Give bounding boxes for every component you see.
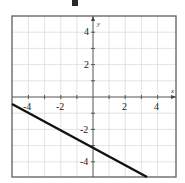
y-tick-label: -4 — [80, 156, 88, 167]
x-axis-label: x — [170, 87, 175, 95]
x-axis-arrow-icon — [171, 95, 176, 99]
y-tick-label: -2 — [80, 124, 88, 135]
y-tick-label: 2 — [84, 59, 89, 70]
coordinate-plane: y x -4 -2 2 4 4 2 -2 -4 — [0, 0, 185, 183]
y-axis-arrow-icon — [91, 16, 95, 21]
axes — [12, 16, 176, 177]
x-tick-label: 2 — [122, 101, 127, 112]
x-tick-label: -2 — [56, 101, 64, 112]
y-axis-label: y — [96, 20, 101, 28]
x-tick-label: 4 — [154, 101, 159, 112]
y-tick-label: 4 — [84, 26, 89, 37]
